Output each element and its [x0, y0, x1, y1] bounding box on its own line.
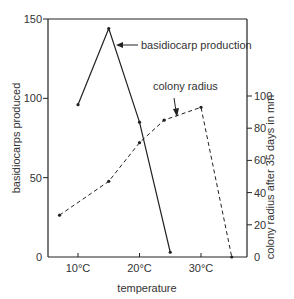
data-point [169, 251, 172, 254]
chart: 050100150 020406080100 10°C20°C30°C temp… [0, 0, 294, 299]
series-lines [58, 27, 233, 259]
y-tick-label: 50 [30, 172, 42, 184]
y-tick-label: 100 [24, 92, 42, 104]
data-point [107, 180, 110, 183]
x-tick-label: 30°C [189, 262, 214, 274]
data-point [107, 27, 110, 30]
svg-text:colony radius: colony radius [153, 80, 218, 92]
y-axis-title: basidiocarps produced [10, 83, 22, 194]
data-point [76, 103, 79, 106]
x-axis-title: temperature [117, 282, 176, 294]
x-tick-label: 20°C [127, 262, 152, 274]
y2-tick-label: 0 [254, 251, 260, 263]
left-axis-ticks: 050100150 [24, 13, 48, 263]
data-point [138, 121, 141, 124]
data-point [230, 255, 233, 258]
data-point [138, 141, 141, 144]
data-point [58, 214, 61, 217]
y2-axis-title: colony radius after 35 days in mm [264, 95, 276, 259]
series-line-0 [78, 29, 170, 253]
annotation-colony-radius: colony radius [153, 80, 218, 117]
y-tick-label: 0 [36, 251, 42, 263]
x-tick-label: 10°C [66, 262, 91, 274]
svg-text:basidiocarp production: basidiocarp production [141, 39, 252, 51]
data-point [199, 106, 202, 109]
series-line-1 [60, 107, 232, 257]
data-point [163, 119, 166, 122]
x-axis-ticks: 10°C20°C30°C [66, 253, 214, 274]
annotation-basidiocarp: basidiocarp production [116, 39, 252, 51]
plot-frame [48, 19, 247, 257]
y-tick-label: 150 [24, 13, 42, 25]
